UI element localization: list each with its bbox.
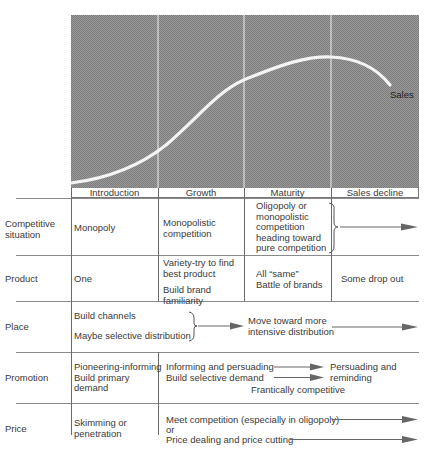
brace-arrow-icon xyxy=(325,200,420,255)
arrow-right-icon xyxy=(330,413,420,426)
text-line: demand xyxy=(74,383,162,394)
text-line: competition xyxy=(163,229,216,240)
text-line: best product xyxy=(163,269,234,280)
text-line: penetration xyxy=(74,429,127,440)
product-growth: Variety-try to find best product Build b… xyxy=(163,258,234,306)
row-label-place: Place xyxy=(5,322,29,333)
product-life-cycle-chart: Sales xyxy=(71,15,419,188)
place-build-channels: Build channels xyxy=(74,311,136,322)
text-line: Informing and persuading xyxy=(166,362,274,373)
promotion-growth: Informing and persuading Build selective… xyxy=(166,362,274,383)
product-maturity: All “same” Battle of brands xyxy=(256,269,323,290)
column-divider xyxy=(158,188,159,301)
text-line: competition xyxy=(256,222,326,233)
text-line: All “same” xyxy=(256,269,323,280)
text-line: Persuading and xyxy=(330,362,397,373)
stage-sales-decline: Sales decline xyxy=(331,188,419,198)
label-line: situation xyxy=(5,230,55,241)
text-line: Build selective demand xyxy=(166,373,274,384)
double-arrow-icon xyxy=(274,362,326,384)
text-line: Battle of brands xyxy=(256,280,323,291)
row-label-competitive-situation: Competitive situation xyxy=(5,219,55,240)
stage-growth: Growth xyxy=(158,188,244,198)
row-divider xyxy=(16,403,419,404)
text-line: familiarity xyxy=(163,296,234,307)
stage-introduction: Introduction xyxy=(71,188,158,198)
row-label-promotion: Promotion xyxy=(5,373,48,384)
arrow-right-icon xyxy=(330,320,420,334)
price-dealing-cutting: Price dealing and price cutting xyxy=(166,435,293,446)
text-line: pure competition xyxy=(256,243,326,254)
label-line: Competitive xyxy=(5,219,55,230)
column-divider xyxy=(244,188,245,301)
row-label-price: Price xyxy=(5,424,27,435)
price-introduction: Skimming or penetration xyxy=(74,418,127,439)
text-line: reminding xyxy=(330,373,397,384)
text-line: intensive distribution xyxy=(248,327,334,338)
promotion-introduction: Pioneering-informing Build primary deman… xyxy=(74,362,162,394)
row-divider xyxy=(16,198,419,199)
place-target: Move toward more intensive distribution xyxy=(248,316,334,337)
arrow-right-icon xyxy=(288,433,420,446)
text-line: Variety-try to find xyxy=(163,258,234,269)
stage-maturity: Maturity xyxy=(244,188,331,198)
text-line: Monopolistic xyxy=(163,218,216,229)
text-line: Pioneering-informing xyxy=(74,362,162,373)
place-selective-distribution: Maybe selective distribution xyxy=(74,331,191,342)
text-line: Build brand xyxy=(163,285,234,296)
text-line: Oligopoly or xyxy=(256,201,326,212)
competitive-maturity: Oligopoly or monopolistic competition he… xyxy=(256,201,326,254)
brace-arrow-icon xyxy=(186,310,246,345)
promotion-note: Frantically competitive xyxy=(251,385,345,396)
competitive-introduction: Monopoly xyxy=(74,223,115,234)
price-meet-competition: Meet competition (especially in oligopol… xyxy=(166,415,339,426)
text-line: Move toward more xyxy=(248,316,334,327)
row-divider xyxy=(16,352,419,353)
product-decline: Some drop out xyxy=(341,274,403,285)
promotion-target: Persuading and reminding xyxy=(330,362,397,383)
sales-curve-graphic xyxy=(71,15,419,188)
product-introduction: One xyxy=(74,274,92,285)
sales-curve-label: Sales xyxy=(390,90,414,101)
text-line: Skimming or xyxy=(74,418,127,429)
row-label-product: Product xyxy=(5,274,38,285)
column-divider xyxy=(71,188,72,435)
row-divider xyxy=(16,255,419,256)
competitive-growth: Monopolistic competition xyxy=(163,218,216,239)
